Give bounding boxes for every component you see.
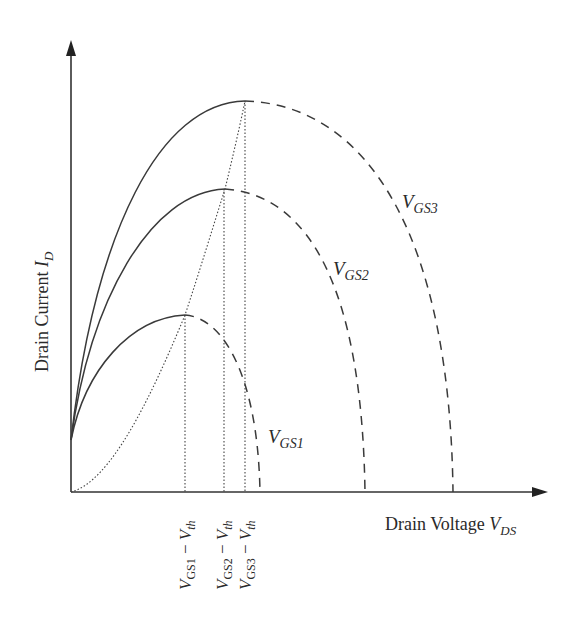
vgs3-label: VGS3 — [402, 191, 438, 216]
vgs3-solid-curve — [71, 101, 245, 440]
iv-characteristic-diagram: VGS1 VGS2 VGS3 Drain Voltage VDS Drain C… — [0, 0, 577, 626]
x-axis-label: Drain Voltage VDS — [385, 514, 517, 538]
vgs2-solid-curve — [71, 189, 225, 440]
x-tick-vgs2-vth: VGS2 − Vth — [213, 520, 235, 590]
x-tick-vgs3-vth: VGS3 − Vth — [236, 520, 258, 590]
vgs2-label: VGS2 — [333, 258, 369, 283]
y-axis-label: Drain Current ID — [32, 251, 56, 372]
y-axis-arrow-icon — [66, 40, 76, 56]
x-axis-arrow-icon — [532, 487, 548, 497]
vgs1-dashed-curve — [185, 315, 260, 492]
vgs1-label: VGS1 — [268, 426, 304, 451]
x-tick-vgs1-vth: VGS1 − Vth — [176, 520, 198, 590]
